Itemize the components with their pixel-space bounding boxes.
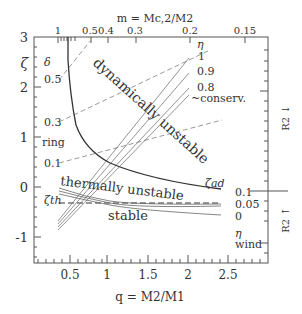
svg-text:2: 2 — [20, 80, 28, 95]
svg-text:2: 2 — [184, 268, 192, 282]
svg-text:0.15: 0.15 — [234, 25, 256, 36]
x-tick-labels: 0.5 1 1.5 2 2.5 — [60, 268, 237, 282]
right-label-lower: R2 ↑ — [280, 207, 291, 232]
top-axis-title: m = Mc,2/M2 — [117, 12, 194, 25]
svg-text:0.5: 0.5 — [60, 268, 79, 282]
top-axis-ticks — [58, 37, 245, 43]
svg-text:2.5: 2.5 — [218, 268, 237, 282]
svg-text:0: 0 — [20, 180, 28, 195]
right-label-upper: R2 ↓ — [280, 105, 291, 130]
svg-text:1: 1 — [103, 268, 111, 282]
svg-text:0.9: 0.9 — [197, 65, 215, 78]
svg-text:ζth: ζth — [44, 194, 61, 207]
svg-text:-1: -1 — [15, 230, 28, 245]
svg-text:δ: δ — [44, 56, 51, 69]
svg-text:ζad: ζad — [205, 177, 225, 190]
svg-text:3: 3 — [20, 30, 28, 45]
svg-text:0: 0 — [235, 210, 242, 223]
svg-text:wind: wind — [235, 238, 262, 251]
svg-text:0.1: 0.1 — [44, 157, 62, 170]
svg-text:1: 1 — [198, 50, 205, 63]
x-axis-ticks — [38, 255, 260, 263]
svg-text:0.5: 0.5 — [82, 25, 98, 36]
svg-text:0.5: 0.5 — [44, 73, 62, 86]
chart: 3 2 1 0 -1 0.5 1 1.5 2 2.5 1 0.5 0.4 0.3… — [0, 0, 302, 314]
y-axis-ticks — [34, 47, 41, 257]
svg-text:0.3: 0.3 — [127, 25, 143, 36]
y-axis-title: ζ — [20, 55, 29, 71]
svg-text:1: 1 — [55, 25, 61, 36]
svg-text:0.4: 0.4 — [98, 25, 114, 36]
svg-text:1: 1 — [20, 130, 28, 145]
svg-text:0.3: 0.3 — [44, 116, 62, 129]
svg-text:0.2: 0.2 — [182, 25, 198, 36]
svg-text:ring: ring — [42, 136, 65, 149]
svg-text:1.5: 1.5 — [138, 268, 157, 282]
svg-text:~conserv.: ~conserv. — [191, 92, 246, 105]
top-tick-labels: 1 0.5 0.4 0.3 0.2 0.15 — [55, 25, 256, 36]
x-axis-title: q = M2/M1 — [115, 290, 184, 304]
region-stable: stable — [108, 208, 148, 223]
annotations: δ 0.5 0.3 ring 0.1 η 1 0.9 0.8 ~conserv.… — [42, 38, 262, 251]
